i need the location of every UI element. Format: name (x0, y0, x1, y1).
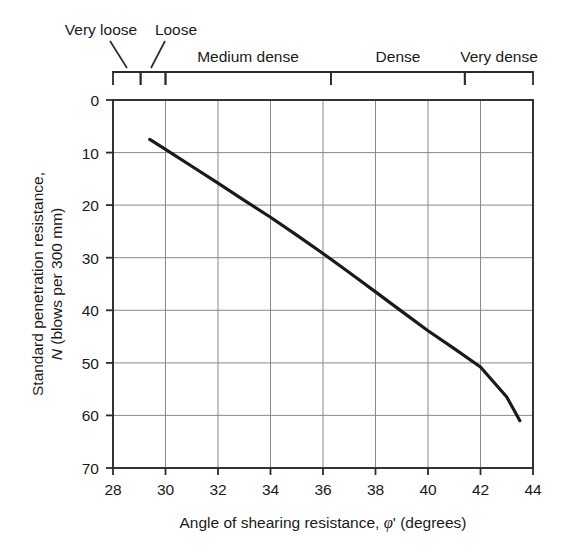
x-axis-ticks (113, 468, 533, 475)
y-tick-label: 0 (90, 92, 99, 109)
x-tick-label: 32 (209, 481, 226, 498)
x-axis-title-prefix: Angle of shearing resistance, (180, 514, 384, 531)
y-axis-title-units: (blows per 300 mm) (48, 208, 65, 349)
y-tick-label: 40 (82, 302, 100, 319)
y-tick-label: 10 (82, 145, 100, 162)
bracket-loose (141, 72, 166, 85)
chart-svg: 0 10 20 30 40 50 60 70 28 30 32 34 36 38… (0, 0, 564, 546)
spt-vs-friction-angle-chart: 0 10 20 30 40 50 60 70 28 30 32 34 36 38… (0, 0, 564, 546)
density-band-labels: Very loose Loose Medium dense Dense Very… (65, 21, 538, 65)
band-label-very-loose: Very loose (65, 21, 137, 38)
x-tick-label: 30 (157, 481, 175, 498)
band-leader-lines (110, 41, 165, 68)
density-band-brackets (113, 72, 533, 85)
y-axis-ticks (106, 100, 113, 468)
x-tick-labels: 28 30 32 34 36 38 40 42 44 (104, 481, 542, 498)
phi-symbol: φ (384, 513, 393, 532)
y-tick-labels: 0 10 20 30 40 50 60 70 (82, 92, 100, 477)
x-tick-label: 36 (314, 481, 331, 498)
y-axis-title-line1: Standard penetration resistance, (29, 172, 46, 396)
band-label-very-dense: Very dense (460, 48, 538, 65)
y-tick-label: 50 (82, 355, 100, 372)
n-symbol: N (48, 348, 65, 360)
leader-line-very-loose (110, 41, 127, 68)
bracket-dense (331, 72, 465, 85)
band-label-loose: Loose (155, 21, 197, 38)
x-tick-label: 28 (104, 481, 121, 498)
y-tick-label: 20 (82, 197, 100, 214)
y-axis-title: Standard penetration resistance, N (blow… (29, 172, 65, 396)
x-tick-label: 44 (524, 481, 542, 498)
y-axis-title-line2: N (blows per 300 mm) (48, 208, 65, 360)
bracket-medium-dense (166, 72, 331, 85)
x-tick-label: 38 (367, 481, 384, 498)
x-tick-label: 42 (472, 481, 489, 498)
band-label-medium-dense: Medium dense (197, 48, 299, 65)
bracket-very-dense (465, 72, 533, 85)
x-axis-title-suffix: (degrees) (396, 514, 467, 531)
bracket-very-loose (113, 72, 141, 85)
x-tick-label: 34 (262, 481, 280, 498)
y-tick-label: 70 (82, 460, 100, 477)
x-tick-label: 40 (419, 481, 437, 498)
leader-line-loose (151, 41, 165, 68)
y-tick-label: 30 (82, 250, 100, 267)
x-axis-title: Angle of shearing resistance, φ' (degree… (180, 513, 467, 532)
y-tick-label: 60 (82, 407, 100, 424)
band-label-dense: Dense (376, 48, 421, 65)
